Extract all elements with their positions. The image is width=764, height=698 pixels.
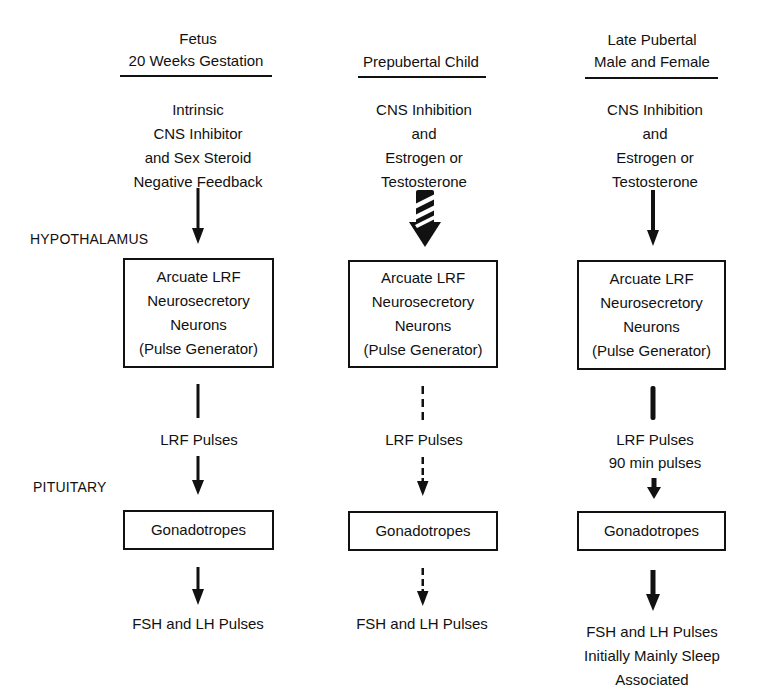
- input-line-1: Intrinsic: [172, 98, 224, 123]
- header-line-1: Late Pubertal: [607, 28, 696, 53]
- gonadotropes-box: Gonadotropes: [123, 510, 274, 550]
- box-label: Gonadotropes: [151, 518, 246, 542]
- input-line-2: and: [411, 122, 436, 147]
- box-line: Neurons: [395, 314, 452, 338]
- dashed-arrow-down-icon: [413, 457, 433, 497]
- box-line: Neurons: [623, 315, 680, 339]
- header-line-1: Fetus: [179, 27, 217, 52]
- arrow-down-icon: [643, 190, 663, 248]
- arrow-down-icon: [188, 188, 208, 246]
- header-line-2: 20 Weeks Gestation: [129, 49, 264, 74]
- lrf-pulses-label: LRF Pulses: [385, 428, 463, 453]
- input-line-2: CNS Inhibitor: [153, 122, 242, 147]
- box-line: (Pulse Generator): [139, 337, 258, 361]
- header-underline: [358, 76, 486, 78]
- lrf-pulses-label: LRF Pulses: [160, 428, 238, 453]
- output-line-3: Associated: [615, 668, 688, 693]
- input-line-1: CNS Inhibition: [607, 98, 703, 123]
- header-line-1: Prepubertal Child: [363, 50, 479, 75]
- pituitary-label: PITUITARY: [33, 479, 107, 495]
- neuron-box: Arcuate LRF Neurosecretory Neurons (Puls…: [123, 258, 274, 368]
- input-line-2: and: [642, 122, 667, 147]
- box-line: Neurosecretory: [147, 289, 250, 313]
- lrf-pulses-label: LRF Pulses: [616, 428, 694, 453]
- box-line: Arcuate LRF: [381, 266, 465, 290]
- arrow-down-icon: [188, 456, 208, 496]
- box-line: (Pulse Generator): [363, 338, 482, 362]
- gonadotropes-box: Gonadotropes: [348, 511, 498, 551]
- box-line: Neurons: [170, 313, 227, 337]
- neuron-box: Arcuate LRF Neurosecretory Neurons (Puls…: [348, 260, 498, 368]
- output-line-2: Initially Mainly Sleep: [584, 644, 720, 669]
- header-underline: [120, 75, 272, 77]
- dashed-arrow-down-icon: [413, 568, 433, 608]
- box-line: (Pulse Generator): [592, 339, 711, 363]
- box-label: Gonadotropes: [375, 519, 470, 543]
- arrow-down-icon: [643, 570, 663, 612]
- arrow-down-icon: [188, 567, 208, 607]
- output-line-1: FSH and LH Pulses: [586, 620, 718, 645]
- input-line-3: Estrogen or: [616, 146, 694, 171]
- box-line: Neurosecretory: [372, 290, 475, 314]
- lrf-connector-thick-line: [643, 386, 663, 422]
- input-line-3: Estrogen or: [385, 146, 463, 171]
- box-label: Gonadotropes: [604, 519, 699, 543]
- input-line-3: and Sex Steroid: [145, 146, 252, 171]
- gonadotropes-box: Gonadotropes: [577, 511, 726, 551]
- arrow-down-icon: [644, 478, 664, 500]
- lrf-connector-dashed-line: [413, 386, 433, 422]
- box-line: Neurosecretory: [600, 291, 703, 315]
- heavy-striped-arrow-icon: [408, 190, 442, 248]
- box-line: Arcuate LRF: [609, 267, 693, 291]
- lrf-pulses-interval: 90 min pulses: [609, 451, 702, 476]
- neuron-box: Arcuate LRF Neurosecretory Neurons (Puls…: [577, 260, 726, 370]
- box-line: Arcuate LRF: [156, 265, 240, 289]
- output-line-1: FSH and LH Pulses: [132, 612, 264, 637]
- header-underline: [585, 77, 718, 79]
- lrf-connector-line: [188, 384, 208, 420]
- output-line-1: FSH and LH Pulses: [356, 612, 488, 637]
- input-line-1: CNS Inhibition: [376, 98, 472, 123]
- hypothalamus-label: HYPOTHALAMUS: [30, 231, 148, 247]
- header-line-2: Male and Female: [594, 50, 710, 75]
